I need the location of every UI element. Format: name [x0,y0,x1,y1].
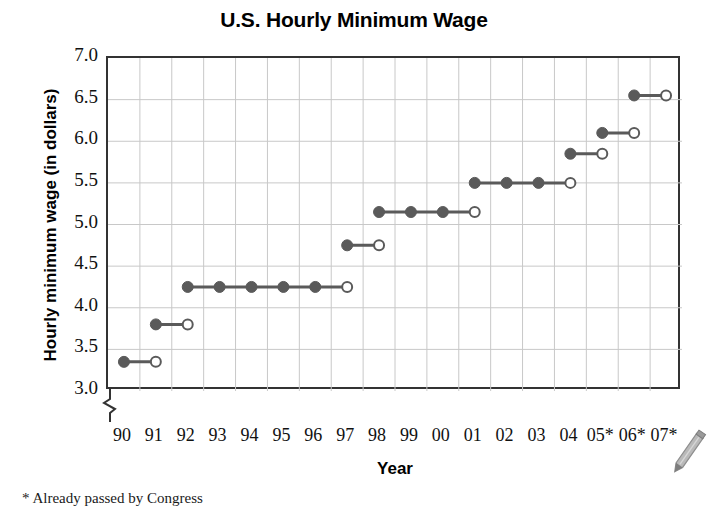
y-tick-label: 4.5 [52,252,98,274]
y-tick-label: 7.0 [52,44,98,66]
footnote: * Already passed by Congress [22,490,203,507]
y-tick-label: 6.5 [52,86,98,108]
plot-svg [108,58,682,391]
chart-container: U.S. Hourly Minimum Wage Hourly minimum … [0,0,708,521]
y-tick-label: 6.0 [52,127,98,149]
chart-title: U.S. Hourly Minimum Wage [0,8,708,32]
axis-break-icon [96,388,122,422]
y-tick-label: 5.0 [52,211,98,233]
y-tick-label: 3.0 [52,377,98,399]
pencil-icon [660,424,708,486]
plot-area [106,56,680,389]
y-tick-label: 3.5 [52,335,98,357]
y-tick-label: 4.0 [52,294,98,316]
y-tick-label: 5.5 [52,169,98,191]
x-axis-title: Year [100,459,690,479]
